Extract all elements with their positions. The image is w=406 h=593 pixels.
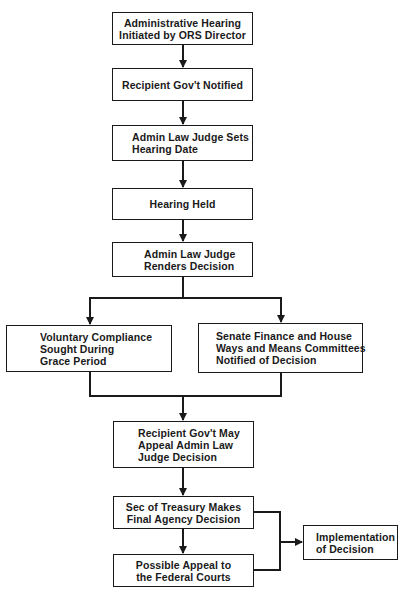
node-text: Grace Period — [40, 355, 107, 367]
node-text: Voluntary Compliance — [40, 331, 152, 343]
node-text: Sought During — [40, 343, 114, 355]
node-administrative-hearing: Administrative Hearing Initiated by ORS … — [112, 12, 253, 45]
node-text: Sec of Treasury Makes — [126, 501, 241, 513]
bracket-connector — [254, 512, 280, 570]
node-text: Admin Law Judge — [144, 248, 235, 260]
node-text: Hearing Date — [132, 143, 198, 155]
node-implementation: Implementation of Decision — [303, 525, 398, 560]
node-text: Hearing Held — [150, 198, 216, 210]
node-sec-treasury-decision: Sec of Treasury Makes Final Agency Decis… — [113, 496, 254, 529]
node-text: Implementation — [316, 531, 395, 543]
node-judge-renders-decision: Admin Law Judge Renders Decision — [112, 242, 253, 277]
node-text: Administrative Hearing — [124, 17, 241, 29]
node-text: Ways and Means Committees — [216, 342, 366, 354]
node-text: Final Agency Decision — [127, 513, 241, 525]
node-text: Admin Law Judge Sets — [132, 131, 249, 143]
node-judge-sets-date: Admin Law Judge Sets Hearing Date — [112, 125, 253, 161]
node-text: Recipient Gov't Notified — [122, 79, 243, 91]
node-text: Judge Decision — [138, 451, 217, 463]
node-text: Appeal Admin Law — [138, 439, 233, 451]
node-text: the Federal Courts — [136, 571, 231, 583]
node-text: of Decision — [316, 543, 374, 555]
node-hearing-held: Hearing Held — [112, 188, 253, 220]
node-senate-house-notified: Senate Finance and House Ways and Means … — [198, 323, 363, 373]
flowchart: Administrative Hearing Initiated by ORS … — [0, 0, 406, 593]
node-text: Initiated by ORS Director — [119, 29, 246, 41]
node-voluntary-compliance: Voluntary Compliance Sought During Grace… — [6, 325, 172, 372]
node-recipient-notified: Recipient Gov't Notified — [112, 68, 253, 101]
node-recipient-may-appeal: Recipient Gov't May Appeal Admin Law Jud… — [113, 421, 254, 468]
node-federal-courts-appeal: Possible Appeal to the Federal Courts — [113, 554, 254, 587]
node-text: Senate Finance and House — [216, 330, 352, 342]
node-text: Possible Appeal to — [136, 559, 231, 571]
node-text: Recipient Gov't May — [138, 427, 240, 439]
node-text: Notified of Decision — [216, 354, 317, 366]
node-text: Renders Decision — [144, 260, 234, 272]
